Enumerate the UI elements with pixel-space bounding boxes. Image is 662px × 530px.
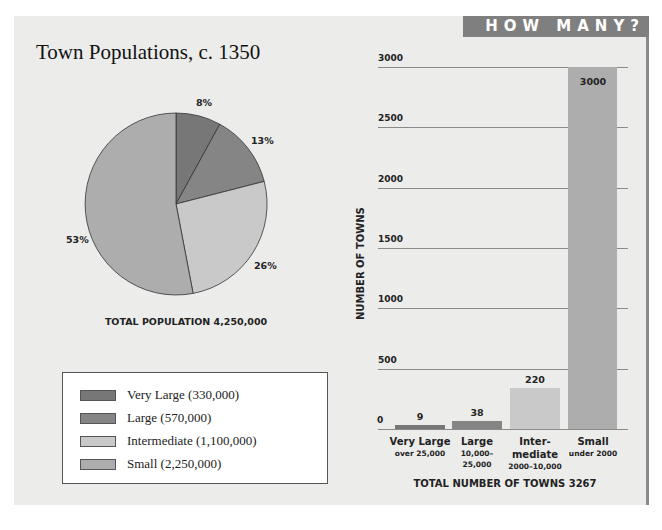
- pie-label-intermediate: 26%: [254, 260, 277, 271]
- bar-small: [568, 67, 617, 429]
- category-range: 2000–10,000: [503, 461, 567, 472]
- ytick-1000: 1000: [378, 294, 403, 304]
- category-very-large: Very Large over 25,000: [388, 435, 452, 459]
- bar-value-very-large: 9: [395, 411, 445, 422]
- baseline: [378, 429, 628, 430]
- pie-label-very-large: 8%: [196, 97, 212, 108]
- ytick-500: 500: [378, 355, 397, 365]
- legend-item-intermediate: Intermediate (1,100,000): [80, 433, 257, 449]
- legend-swatch-large: [80, 413, 116, 424]
- legend-swatch-intermediate: [80, 436, 116, 447]
- total-number-of-towns: TOTAL NUMBER OF TOWNS 3267: [380, 478, 630, 489]
- bar-value-intermediate: 220: [510, 374, 560, 385]
- pie-chart-title: Town Populations, c. 1350: [36, 40, 260, 65]
- bar-large: [452, 421, 502, 429]
- ytick-1500: 1500: [378, 234, 403, 244]
- category-range: over 25,000: [388, 448, 452, 459]
- ytick-0: 0: [377, 415, 383, 425]
- category-range-2: 25,000: [445, 459, 509, 470]
- legend-item-very-large: Very Large (330,000): [80, 387, 239, 403]
- category-name: Small: [561, 435, 625, 448]
- category-range: under 2000: [561, 448, 625, 459]
- legend-label: Very Large (330,000): [127, 387, 239, 403]
- ytick-2500: 2500: [378, 113, 403, 123]
- bar-value-small: 3000: [568, 76, 618, 87]
- category-range: 10,000–: [445, 448, 509, 459]
- ytick-2000: 2000: [378, 174, 403, 184]
- pie-total-population: TOTAL POPULATION 4,250,000: [96, 316, 276, 327]
- bar-intermediate: [510, 388, 560, 429]
- category-name: Very Large: [388, 435, 452, 448]
- legend-item-small: Small (2,250,000): [80, 456, 221, 472]
- legend-label: Small (2,250,000): [127, 456, 221, 472]
- category-large: Large 10,000– 25,000: [445, 435, 509, 470]
- category-small: Small under 2000: [561, 435, 625, 459]
- pie-label-small: 53%: [66, 234, 89, 245]
- bar-value-large: 38: [452, 407, 502, 418]
- y-axis-label: NUMBER OF TOWNS: [355, 207, 366, 320]
- ytick-3000: 3000: [378, 53, 403, 63]
- pie-label-large: 13%: [251, 135, 274, 146]
- how-many-banner: HOW MANY?: [463, 16, 649, 37]
- legend-label: Large (570,000): [127, 410, 211, 426]
- legend-swatch-very-large: [80, 390, 116, 401]
- pie-legend: Very Large (330,000) Large (570,000) Int…: [62, 372, 328, 484]
- category-intermediate: Inter- mediate 2000–10,000: [503, 435, 567, 472]
- category-name: Large: [445, 435, 509, 448]
- category-name-2: mediate: [503, 448, 567, 461]
- pie-chart: [80, 106, 275, 302]
- bar-very-large: [395, 425, 445, 429]
- legend-item-large: Large (570,000): [80, 410, 211, 426]
- category-name: Inter-: [503, 435, 567, 448]
- legend-label: Intermediate (1,100,000): [127, 433, 257, 449]
- legend-swatch-small: [80, 459, 116, 470]
